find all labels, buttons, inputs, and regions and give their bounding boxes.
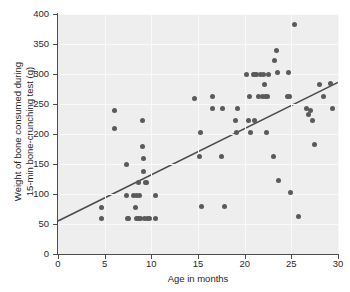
y-axis-tick — [53, 224, 57, 225]
data-point — [330, 106, 335, 111]
y-axis-tick — [53, 194, 57, 195]
y-axis-tick-label: 400 — [0, 9, 49, 19]
data-point — [137, 193, 142, 198]
y-axis-tick — [53, 14, 57, 15]
data-point — [246, 118, 251, 123]
data-point — [317, 82, 322, 87]
data-point — [321, 94, 326, 99]
x-axis-tick-label: 30 — [323, 259, 350, 269]
y-axis-tick — [53, 74, 57, 75]
gridline-vertical — [245, 14, 246, 254]
data-point — [310, 118, 315, 123]
x-axis-tick-label: 5 — [90, 259, 120, 269]
data-point — [252, 118, 257, 123]
data-point — [306, 112, 311, 117]
y-axis-tick-label: 200 — [0, 129, 49, 139]
y-axis-line — [57, 13, 58, 255]
data-point — [222, 204, 227, 209]
data-point — [141, 156, 146, 161]
y-axis-tick-label: 0 — [0, 249, 49, 259]
y-axis-tick-label: 50 — [0, 219, 49, 229]
data-point — [235, 106, 240, 111]
data-point — [133, 205, 138, 210]
data-point — [328, 81, 333, 86]
data-point — [247, 94, 252, 99]
y-axis-tick-label: 300 — [0, 69, 49, 79]
y-axis-tick — [53, 104, 57, 105]
data-point — [264, 130, 269, 135]
data-point — [262, 82, 267, 87]
data-point — [140, 144, 145, 149]
y-axis-tick-label: 100 — [0, 189, 49, 199]
gridline-vertical — [338, 14, 339, 254]
y-axis-tick-label: 150 — [0, 159, 49, 169]
data-point — [136, 180, 141, 185]
data-point — [124, 193, 129, 198]
data-point — [312, 142, 317, 147]
data-point — [144, 180, 149, 185]
data-point — [219, 154, 224, 159]
data-point — [296, 214, 301, 219]
data-point — [210, 94, 215, 99]
y-axis-tick — [53, 134, 57, 135]
data-point — [271, 154, 276, 159]
data-point — [308, 108, 313, 113]
data-point — [124, 162, 129, 167]
x-axis-label: Age in months — [58, 273, 338, 284]
y-axis-tick — [53, 164, 57, 165]
gridline-vertical — [105, 14, 106, 254]
y-axis-tick — [53, 254, 57, 255]
x-axis-tick-label: 0 — [43, 259, 73, 269]
data-point — [274, 48, 279, 53]
data-point — [265, 94, 270, 99]
plot-area — [58, 14, 338, 254]
y-axis-tick — [53, 44, 57, 45]
y-axis-tick-label: 350 — [0, 39, 49, 49]
data-point — [112, 108, 117, 113]
x-axis-tick-label: 25 — [276, 259, 306, 269]
data-point — [192, 96, 197, 101]
data-point — [199, 204, 204, 209]
data-point — [153, 193, 158, 198]
data-point — [99, 216, 104, 221]
data-point — [140, 118, 145, 123]
x-axis-tick-label: 20 — [230, 259, 260, 269]
data-point — [233, 118, 238, 123]
data-point — [244, 72, 249, 77]
data-point — [266, 72, 271, 77]
data-point — [197, 154, 202, 159]
data-point — [292, 22, 297, 27]
data-point — [99, 205, 104, 210]
data-point — [210, 106, 215, 111]
x-axis-tick-label: 10 — [136, 259, 166, 269]
scatter-chart: Age in months Weight of bone consumed du… — [0, 0, 350, 292]
data-point — [153, 216, 158, 221]
data-point — [276, 178, 281, 183]
data-point — [220, 106, 225, 111]
gridline-vertical — [291, 14, 292, 254]
data-point — [141, 169, 146, 174]
data-point — [272, 58, 277, 63]
x-axis-tick-label: 15 — [183, 259, 213, 269]
data-point — [126, 216, 131, 221]
data-point — [112, 126, 117, 131]
y-axis-tick-label: 250 — [0, 99, 49, 109]
